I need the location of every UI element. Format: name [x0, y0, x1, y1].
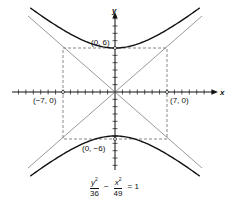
- vertex-bottom-marker: [114, 138, 117, 141]
- fraction-x: x2 49: [114, 174, 123, 199]
- y-axis-label: y: [111, 6, 117, 15]
- equation-den-36: 36: [90, 189, 99, 199]
- equation-exp-x: 2: [119, 176, 122, 182]
- label-vertex-bottom: (0, −6): [82, 144, 106, 153]
- point-left-marker: [62, 91, 65, 94]
- equation-minus: −: [104, 182, 109, 191]
- equation: y2 36 − x2 49 = 1: [88, 174, 142, 199]
- equation-exp-y: 2: [95, 176, 98, 182]
- equation-den-49: 49: [114, 189, 123, 199]
- label-point-right: (7, 0): [170, 96, 189, 105]
- equation-rhs: = 1: [127, 182, 138, 191]
- vertex-top-marker: [114, 47, 117, 50]
- label-point-left: (−7, 0): [33, 96, 57, 105]
- fraction-y: y2 36: [90, 174, 99, 199]
- x-axis-arrow-icon: [212, 90, 218, 95]
- x-axis-label: x: [219, 88, 225, 97]
- point-right-marker: [166, 91, 169, 94]
- label-vertex-top: (0, 6): [91, 38, 110, 47]
